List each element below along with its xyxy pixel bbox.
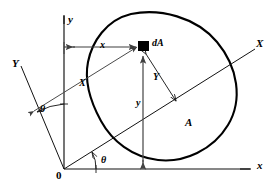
Y-axis-label: Y [12,58,19,69]
area-outline [87,12,237,160]
X-distance-label: X [79,78,86,88]
theta-upper-label: θ [40,104,45,114]
element-dA-label: dA [152,38,164,48]
area-label: A [185,117,192,128]
origin-label: 0 [56,170,62,181]
figure-container: y X Y x 0 θ θ x y X Y A dA [0,0,275,184]
Y-dimension-line [146,54,176,101]
X-axis-label: X [256,38,263,49]
x-distance-label: x [100,40,105,50]
element-dA-marker [138,41,149,51]
Y-distance-label: Y [153,72,159,82]
theta-lower-arc [92,152,96,169]
diagram-canvas [0,0,275,184]
y-axis-label: y [68,14,73,25]
Y-axis-line [21,66,64,169]
theta-lower-label: θ [101,155,106,165]
X-axis-line [64,49,255,169]
y-distance-label: y [136,98,140,108]
x-axis-label: x [257,160,263,171]
